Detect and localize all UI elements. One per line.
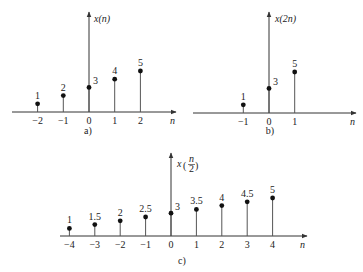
stem-marker <box>241 102 246 107</box>
stem-marker <box>219 203 224 208</box>
tick-label: −4 <box>64 239 75 250</box>
stem-marker <box>67 226 72 231</box>
tick-label: 2 <box>219 239 224 250</box>
value-label: 5 <box>138 57 143 68</box>
stem-marker <box>245 199 250 204</box>
value-label: 3 <box>93 75 98 86</box>
value-label: 4 <box>112 65 117 76</box>
stem-marker <box>112 77 117 82</box>
panel-b: x(2n)n1−13051b) <box>193 12 356 137</box>
value-label: 1 <box>35 90 40 101</box>
y-axis-label: x(n) <box>93 13 111 25</box>
panel-caption: c) <box>178 255 186 267</box>
stem-marker <box>35 101 40 106</box>
panel-caption: b) <box>266 125 274 137</box>
panel-caption: a) <box>84 125 92 137</box>
panel-c: x(n2)n1−41.5−32−22.5−1303.51424.5354c) <box>60 153 307 267</box>
tick-label: −1 <box>58 115 69 126</box>
tick-label: 0 <box>169 239 174 250</box>
tick-label: 1 <box>112 115 117 126</box>
value-label: 5 <box>270 184 275 195</box>
tick-label: 4 <box>270 239 275 250</box>
value-label: 5 <box>292 58 297 69</box>
value-label: 2 <box>118 207 123 218</box>
value-label: 1.5 <box>89 211 102 222</box>
tick-label: 2 <box>138 115 143 126</box>
value-label: 2.5 <box>139 203 152 214</box>
tick-label: −1 <box>238 116 249 127</box>
value-label: 3 <box>175 201 180 212</box>
value-label: 2 <box>61 82 66 93</box>
stem-marker <box>87 85 92 90</box>
paren-left: ( <box>183 160 187 172</box>
value-label: 1 <box>67 214 72 225</box>
tick-label: −2 <box>32 115 43 126</box>
stem-marker <box>270 196 275 201</box>
value-label: 4 <box>219 192 224 203</box>
x-axis-label: n <box>170 115 175 126</box>
stem-marker <box>169 211 174 216</box>
stem-marker <box>92 222 97 227</box>
stem-marker <box>118 218 123 223</box>
frac-den: 2 <box>189 163 194 174</box>
tick-label: 1 <box>292 116 297 127</box>
x-axis-label: n <box>350 116 355 127</box>
stem-marker <box>292 70 297 75</box>
y-axis-label: x <box>176 158 182 169</box>
stem-marker <box>138 69 143 74</box>
stem-marker <box>61 93 66 98</box>
value-label: 3 <box>273 76 278 87</box>
tick-label: 1 <box>194 239 199 250</box>
tick-label: −3 <box>89 239 100 250</box>
figure: x(n)n1−22−1304152a) x(2n)n1−13051b) x(n2… <box>0 0 363 272</box>
value-label: 3.5 <box>190 195 203 206</box>
x-axis-label: n <box>300 239 305 250</box>
stem-marker <box>194 207 199 212</box>
y-axis-label: x(2n) <box>274 13 297 25</box>
stem-marker <box>267 86 272 91</box>
panel-a: x(n)n1−22−1304152a) <box>12 12 176 137</box>
tick-label: −2 <box>115 239 126 250</box>
tick-label: 3 <box>245 239 250 250</box>
value-label: 4.5 <box>241 188 254 199</box>
paren-right: ) <box>195 160 198 172</box>
tick-label: −1 <box>140 239 151 250</box>
value-label: 1 <box>241 91 246 102</box>
stem-marker <box>143 215 148 220</box>
